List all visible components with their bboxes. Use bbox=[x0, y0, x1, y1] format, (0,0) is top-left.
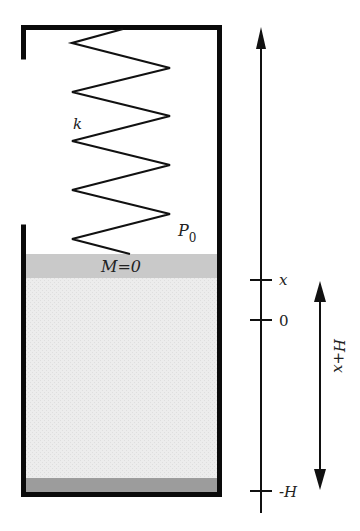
tick-x-label: x bbox=[279, 271, 288, 289]
tick-zero-label: 0 bbox=[279, 312, 289, 330]
spring-constant-label: k bbox=[73, 115, 82, 133]
span-arrow-down-icon bbox=[314, 469, 326, 490]
piston-label: M=0 bbox=[100, 257, 141, 276]
spring-piston-diagram: k P0 M=0 x 0 -H H+x bbox=[0, 0, 360, 531]
vertical-axis bbox=[250, 27, 272, 513]
pressure-label: P0 bbox=[177, 221, 196, 245]
spring bbox=[72, 29, 170, 254]
span-label: H+x bbox=[330, 338, 348, 374]
axis-arrow-up-icon bbox=[256, 27, 266, 49]
span-arrow-up-icon bbox=[314, 281, 326, 302]
fluid-region bbox=[25, 278, 218, 478]
tick-neg-h-label: -H bbox=[279, 483, 298, 501]
span-arrow bbox=[314, 281, 326, 490]
bottom-layer bbox=[25, 478, 218, 492]
